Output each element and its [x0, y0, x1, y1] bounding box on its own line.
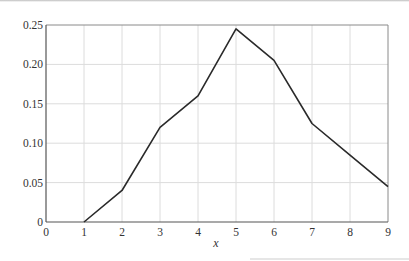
x-tick-label: 3 — [157, 226, 163, 238]
x-tick-label: 0 — [43, 226, 49, 238]
x-tick-label: 6 — [271, 226, 277, 238]
y-tick-label: 0.10 — [23, 137, 43, 149]
y-tick-label: 0.25 — [23, 19, 43, 31]
x-tick-label: 8 — [347, 226, 353, 238]
x-tick-label: 5 — [233, 226, 239, 238]
y-tick-label: 0.20 — [23, 58, 43, 70]
grid-lines — [46, 25, 388, 222]
y-tick-labels: 00.050.100.150.200.25 — [23, 19, 43, 228]
axes — [46, 25, 388, 222]
x-tick-label: 4 — [195, 226, 201, 238]
y-tick-label: 0.05 — [23, 177, 43, 189]
x-axis-label: x — [212, 236, 219, 250]
line-chart: 00.050.100.150.200.25 0123456789 x — [0, 0, 409, 261]
x-tick-label: 9 — [385, 226, 391, 238]
x-tick-label: 7 — [309, 226, 315, 238]
x-tick-label: 1 — [81, 226, 87, 238]
x-tick-label: 2 — [119, 226, 125, 238]
y-tick-label: 0.15 — [23, 98, 43, 110]
